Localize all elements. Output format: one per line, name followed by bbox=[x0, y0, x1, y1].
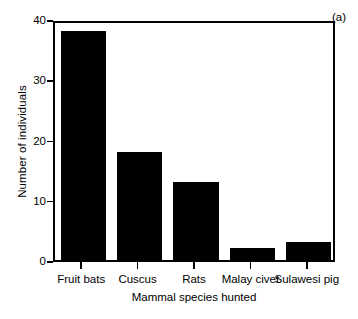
bar bbox=[230, 248, 275, 260]
plot-area bbox=[53, 21, 335, 262]
panel-label: (a) bbox=[332, 11, 346, 24]
x-axis-tick-label: Rats bbox=[182, 272, 206, 286]
y-axis-tick-label: 40 bbox=[22, 15, 46, 26]
bar bbox=[117, 152, 162, 260]
x-axis-tick-mark bbox=[80, 262, 82, 269]
bar-series bbox=[55, 23, 333, 260]
x-axis-tick-label: Cuscus bbox=[118, 272, 156, 286]
x-axis-tick-mark bbox=[250, 262, 252, 269]
bar bbox=[286, 242, 331, 260]
y-axis-tick-label: 10 bbox=[22, 196, 46, 207]
y-axis-tick-label: 20 bbox=[22, 136, 46, 147]
figure: Number of individuals 010203040 Fruit ba… bbox=[0, 0, 358, 319]
bar bbox=[173, 182, 218, 260]
x-axis-title: Mammal species hunted bbox=[53, 290, 335, 304]
x-axis-tick-mark bbox=[306, 262, 308, 269]
x-axis-tick-label: Fruit bats bbox=[57, 272, 105, 286]
x-axis-tick-mark bbox=[193, 262, 195, 269]
bar bbox=[61, 31, 106, 260]
y-axis-tick-labels: 010203040 bbox=[22, 0, 46, 319]
x-axis-tick-label: Malay civet bbox=[222, 272, 280, 286]
y-axis-tick-label: 0 bbox=[22, 256, 46, 267]
x-axis-tick-mark bbox=[137, 262, 139, 269]
y-axis-tick-label: 30 bbox=[22, 75, 46, 86]
x-axis-tick-label: Sulawesi pig bbox=[275, 272, 340, 286]
